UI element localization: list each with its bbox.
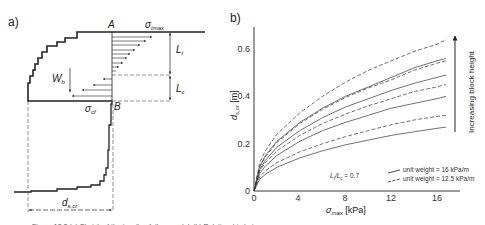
figure-caption: Figure 12.2 (a) Sketch of the toppling f… <box>32 223 284 225</box>
lt-label: Lt <box>176 44 184 56</box>
y-axis-label: ds,cr [m] <box>229 90 240 120</box>
svg-text:16: 16 <box>432 193 442 203</box>
legend: unit weight = 16 kPa/m unit weight = 12.… <box>388 166 474 183</box>
panel-a-label: a) <box>8 15 19 29</box>
tension-stress-arrows <box>112 37 152 71</box>
svg-text:8: 8 <box>342 193 347 203</box>
svg-text:0: 0 <box>251 193 256 203</box>
legend-label-solid: unit weight = 16 kPa/m <box>403 166 469 174</box>
svg-text:0.4: 0.4 <box>237 91 250 101</box>
legend-swatch-dashed <box>388 179 400 182</box>
figure: a) Lt Lc <box>0 0 485 225</box>
point-a-label: A <box>107 19 115 30</box>
legend-label-dashed: unit weight = 12.5 kPa/m <box>403 175 474 183</box>
increasing-height-label: Increasing block height <box>467 50 476 133</box>
point-b-label: B <box>114 101 121 112</box>
svg-text:4: 4 <box>295 193 300 203</box>
compression-stress-arrows <box>72 79 112 96</box>
sigma-cf-label: σcf <box>85 103 97 115</box>
svg-text:0.2: 0.2 <box>237 139 250 149</box>
svg-text:0: 0 <box>245 186 250 196</box>
x-ticks: 0 4 8 12 16 <box>251 193 442 203</box>
sigma-tmax-label: σtmax <box>145 19 165 31</box>
panel-b-label: b) <box>230 11 241 25</box>
panel-a: a) Lt Lc <box>8 15 205 212</box>
ratio-annotation: Lt/Lc = 0.7 <box>330 172 359 181</box>
legend-swatch-solid <box>388 170 400 173</box>
svg-text:0.6: 0.6 <box>237 44 250 54</box>
weight-label: Wb <box>52 73 65 85</box>
ds-cr-label: ds,cr <box>62 197 78 209</box>
y-ticks: 0 0.2 0.4 0.6 <box>237 44 250 196</box>
lc-label: Lc <box>176 83 185 95</box>
displacement-curve <box>14 101 112 192</box>
panel-b: b) 0 0.2 0.4 0.6 0 4 8 12 16 σmax [kPa] … <box>229 11 476 216</box>
svg-text:12: 12 <box>386 193 396 203</box>
x-axis-label: σmax [kPa] <box>326 205 366 216</box>
